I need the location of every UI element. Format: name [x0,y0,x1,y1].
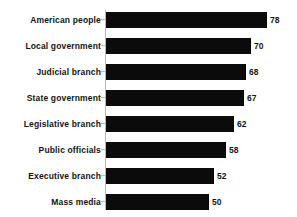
axis-tick [101,123,105,124]
bar-row: State government 67 [0,90,297,106]
bar-row: Local government 70 [0,38,297,54]
axis-tick [101,71,105,72]
axis-tick [101,149,105,150]
bar [106,38,251,54]
category-label: Local government [0,38,101,54]
bar-value-label: 68 [249,64,258,80]
axis-tick [101,97,105,98]
category-label: State government [0,90,101,106]
bar-row: American people 78 [0,12,297,28]
category-label: Legislative branch [0,116,101,132]
category-label: Public officials [0,142,101,158]
bar-row: Legislative branch 62 [0,116,297,132]
bar-value-label: 58 [229,142,238,158]
category-label: American people [0,12,101,28]
bar-rows: American people 78 Local government 70 J… [0,0,297,217]
bar [106,142,226,158]
axis-tick [101,201,105,202]
bar-row: Judicial branch 68 [0,64,297,80]
bar-row: Executive branch 52 [0,168,297,184]
bar-value-label: 52 [217,168,226,184]
axis-tick [101,19,105,20]
bar-value-label: 70 [254,38,263,54]
bar [106,64,246,80]
category-label: Executive branch [0,168,101,184]
bar-row: Mass media 50 [0,194,297,210]
bar-value-label: 78 [270,12,279,28]
bar [106,168,214,184]
bar-value-label: 62 [237,116,246,132]
category-label: Judicial branch [0,64,101,80]
bar-value-label: 50 [212,194,221,210]
bar [106,12,267,28]
axis-tick [101,175,105,176]
bar-value-label: 67 [247,90,256,106]
bar-row: Public officials 58 [0,142,297,158]
category-label: Mass media [0,194,101,210]
axis-tick [101,45,105,46]
bar [106,194,209,210]
bar [106,116,234,132]
bar [106,90,244,106]
horizontal-bar-chart: American people 78 Local government 70 J… [0,0,297,217]
